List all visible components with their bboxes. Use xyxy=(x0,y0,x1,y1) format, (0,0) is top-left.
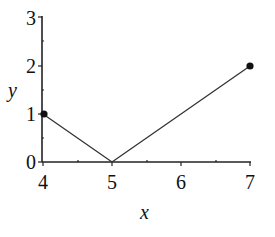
x-axis-label: x xyxy=(139,201,149,223)
data-point-end xyxy=(246,62,253,69)
x-tick-label-4: 4 xyxy=(38,171,48,193)
y-ticks xyxy=(38,17,44,162)
y-tick-label-2: 2 xyxy=(26,55,36,77)
data-point-start xyxy=(40,110,47,117)
x-tick-label-6: 6 xyxy=(176,171,186,193)
y-tick-label-3: 3 xyxy=(26,7,36,29)
x-tick-label-7: 7 xyxy=(245,171,255,193)
y-axis-label: y xyxy=(6,79,17,102)
y-tick-label-0: 0 xyxy=(26,151,36,173)
chart: 0 1 2 3 4 5 6 7 y x xyxy=(0,0,275,237)
y-tick-label-1: 1 xyxy=(26,103,36,125)
x-tick-label-5: 5 xyxy=(107,171,117,193)
x-ticks xyxy=(43,160,250,166)
data-line xyxy=(43,66,250,162)
